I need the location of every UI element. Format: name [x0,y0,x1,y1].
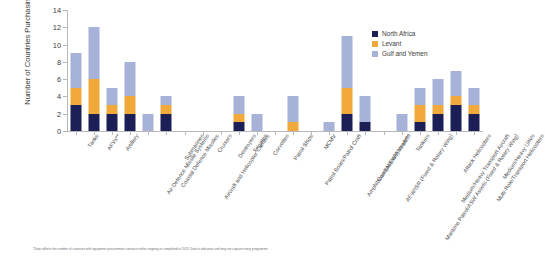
legend-swatch [372,31,378,37]
bar-slot[interactable] [176,10,194,131]
bar-segment [233,122,244,131]
x-tick-mark [76,131,77,135]
bar-segment [414,105,425,122]
x-tick-mark [384,131,385,135]
bar-slot[interactable] [194,10,212,131]
bar-segment [414,88,425,105]
bar-segment [71,53,82,88]
bar-slot[interactable] [393,10,411,131]
bar-segment [71,105,82,131]
bar-segment [143,114,154,131]
stacked-bar[interactable] [107,88,118,131]
x-tick-mark [438,131,439,135]
x-tick-label: Patrol Ships [292,133,314,162]
legend-item[interactable]: Levant [372,40,427,47]
bar-slot[interactable] [230,10,248,131]
bar-segment [432,114,443,131]
legend-swatch [372,41,378,47]
stacked-bar[interactable] [342,36,353,131]
bar-segment [107,105,118,114]
x-tick-mark [402,131,403,135]
bar-segment [125,114,136,131]
legend-label: North Africa [382,30,415,37]
bar-segment [161,105,172,114]
stacked-bar[interactable] [360,96,371,131]
x-tick-mark [275,131,276,135]
bar-slot[interactable] [429,10,447,131]
bar-slot[interactable] [103,10,121,131]
x-tick-mark [166,131,167,135]
bar-slot[interactable] [338,10,356,131]
stacked-bar[interactable] [396,114,407,131]
x-tick-label: AEW/ISR (Fixed & Rotary Wing) [405,133,455,203]
x-tick-mark [239,131,240,135]
bar-slot[interactable] [121,10,139,131]
bar-segment [396,114,407,131]
bar-slot[interactable] [67,10,85,131]
stacked-bar[interactable] [468,88,479,131]
bar-slot[interactable] [139,10,157,131]
bar-segment [161,96,172,105]
legend: North AfricaLevantGulf and Yemen [372,30,427,61]
bar-slot[interactable] [266,10,284,131]
bar-segment [450,96,461,105]
bar-segment [71,88,82,105]
bar-segment [360,122,371,131]
x-tick-label: Tankers [414,133,430,153]
bar-segment [342,114,353,131]
bar-segment [125,62,136,97]
bar-segment [468,88,479,105]
x-tick-label: AFVs** [106,133,121,152]
stacked-bar[interactable] [89,27,100,131]
legend-item[interactable]: Gulf and Yemen [372,50,427,57]
bar-segment [161,114,172,131]
bar-slot[interactable] [212,10,230,131]
bar-slot[interactable] [465,10,483,131]
stacked-bar[interactable] [143,114,154,131]
y-tick-label: 12 [53,27,61,28]
bar-segment [233,114,244,123]
y-tick-label: 10 [53,45,61,46]
x-tick-label: Air-Defence Missile Systems [166,133,211,196]
bar-segment [432,79,443,105]
bar-segment [89,79,100,114]
bar-slot[interactable] [284,10,302,131]
axes: 02468101214 [67,10,483,131]
stacked-bar[interactable] [161,96,172,131]
stacked-bar[interactable] [450,71,461,131]
stacked-bar[interactable] [233,96,244,131]
x-tick-label: Corvettes [271,133,290,156]
bar-segment [468,114,479,131]
stacked-bar[interactable] [71,53,82,131]
x-tick-mark [112,131,113,135]
stacked-bar[interactable] [251,114,262,131]
stacked-bar[interactable] [324,122,335,131]
bar-group [67,10,483,131]
bar-slot[interactable] [248,10,266,131]
stacked-bar[interactable] [432,79,443,131]
bar-slot[interactable] [356,10,374,131]
x-tick-mark [474,131,475,135]
legend-label: Gulf and Yemen [382,50,427,57]
x-tick-label: MCMV [323,133,338,151]
legend-item[interactable]: North Africa [372,30,427,37]
bar-segment [360,96,371,122]
x-tick-mark [293,131,294,135]
x-tick-mark [347,131,348,135]
stacked-bar[interactable] [288,96,299,131]
bar-slot[interactable] [320,10,338,131]
bar-slot[interactable] [85,10,103,131]
y-tick-label: 8 [57,62,61,63]
bar-slot[interactable] [374,10,392,131]
stacked-bar[interactable] [414,88,425,131]
bar-slot[interactable] [447,10,465,131]
bar-slot[interactable] [302,10,320,131]
bar-slot[interactable] [157,10,175,131]
x-tick-mark [257,131,258,135]
bar-slot[interactable] [411,10,429,131]
bar-segment [468,105,479,114]
bar-segment [288,122,299,131]
stacked-bar[interactable] [125,62,136,131]
bar-segment [288,96,299,122]
